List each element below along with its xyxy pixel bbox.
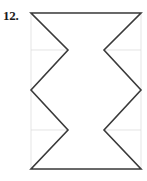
figure-page: 12. <box>0 0 147 181</box>
geometry-figure <box>0 0 147 181</box>
star-polygon-outline <box>31 13 141 169</box>
